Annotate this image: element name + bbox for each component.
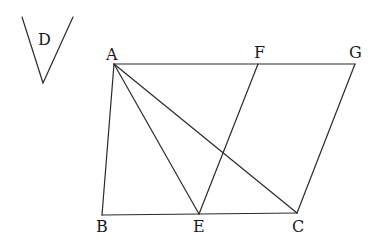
label-f: F (254, 43, 265, 62)
angle-d: D (22, 17, 73, 83)
label-b: B (96, 217, 108, 236)
segment-ef (199, 64, 258, 214)
segment-ac (114, 64, 297, 213)
angle-d-lines (22, 17, 73, 83)
label-c: C (292, 217, 304, 236)
label-a: A (105, 45, 118, 64)
label-g: G (349, 43, 362, 62)
label-d: D (38, 30, 51, 49)
segment-ae (114, 64, 199, 214)
label-e: E (193, 217, 205, 236)
segment-ab (102, 64, 114, 215)
segments (102, 64, 355, 215)
geometry-diagram: D AFGBEC (0, 0, 380, 242)
segment-cg (297, 64, 355, 213)
